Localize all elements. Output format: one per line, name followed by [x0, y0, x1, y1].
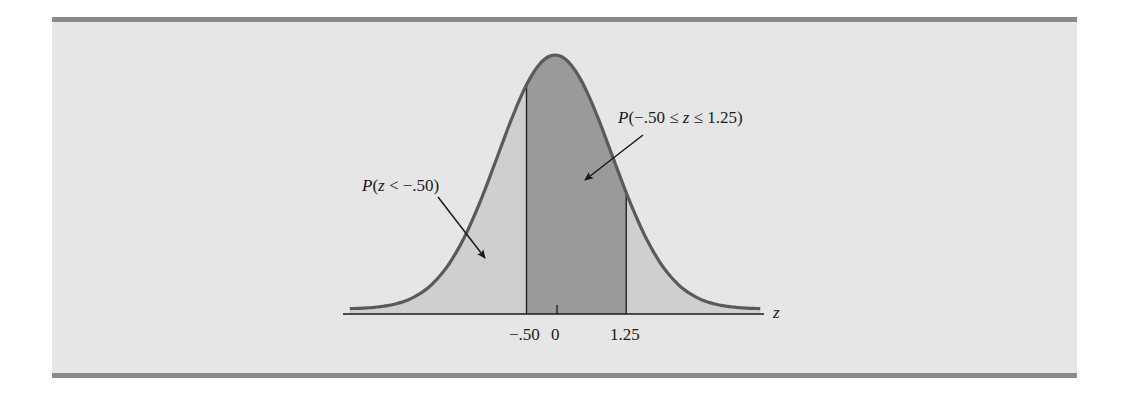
normal-curve-chart: P(z < −.50) P(−.50 ≤ z ≤ 1.25) z −.50 0 … [0, 0, 1132, 399]
axis-label-z: z [772, 303, 780, 322]
tick-label-0: 0 [551, 325, 560, 344]
tick-label-125: 1.25 [610, 325, 640, 344]
annotation-middle: P(−.50 ≤ z ≤ 1.25) [617, 108, 743, 127]
tick-label-neg050: −.50 [509, 325, 540, 344]
middle-region [527, 55, 627, 314]
annotation-left: P(z < −.50) [361, 176, 439, 195]
